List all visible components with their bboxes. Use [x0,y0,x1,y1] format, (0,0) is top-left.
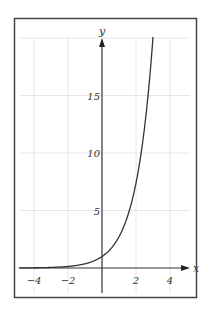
y-tick-label: 10 [87,148,100,159]
y-axis-label: y [98,25,106,38]
chart: x y −4−22451015 [0,0,209,319]
x-tick-label: 2 [132,275,139,286]
x-tick-label: 4 [166,275,173,286]
chart-frame [15,19,197,298]
x-tick-label: −2 [61,275,76,286]
x-axis-label: x [193,262,200,275]
x-tick-label: −4 [27,275,42,286]
y-tick-label: 15 [87,91,100,102]
y-tick-label: 5 [94,206,100,217]
